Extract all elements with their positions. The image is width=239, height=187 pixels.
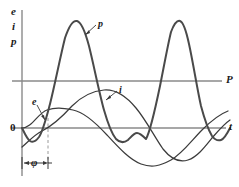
curve-label-p: p [98,19,103,29]
curve-label-e: e [32,97,36,107]
phase-angle-label: φ [31,157,37,168]
y-axis-label-p: p [11,36,17,47]
origin-label: 0 [10,122,16,133]
time-axis-label: t [229,121,232,132]
current-curve [22,90,230,161]
y-axis-label-e: e [11,6,16,17]
y-axis-label-i: i [12,21,15,32]
phase-arrow-left [24,161,29,165]
voltage-curve [22,108,228,166]
e-label-arrow [41,115,45,120]
phase-arrow-right [43,161,48,165]
waveform-figure: e i p 0 P t p i e φ [0,0,239,187]
i-label-arrow [106,95,111,100]
average-power-label: P [226,74,233,85]
curve-label-i: i [119,85,122,95]
